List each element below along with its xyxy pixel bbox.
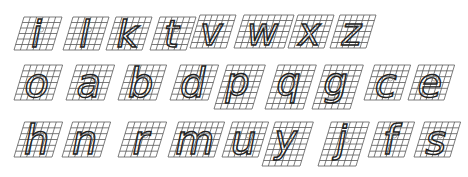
- letterform-f: f: [383, 117, 403, 163]
- letterform-m: m: [175, 117, 214, 163]
- letterform-h: h: [24, 117, 49, 163]
- letter-grid-u: u: [222, 117, 269, 163]
- letter-grid-i: i: [14, 12, 62, 56]
- letter-grid-f: f: [368, 117, 415, 163]
- letterform-t: t: [164, 12, 181, 56]
- letterform-v: v: [200, 10, 223, 54]
- letterform-p: p: [225, 60, 250, 104]
- letter-grid-n: n: [62, 117, 111, 163]
- letterform-c: c: [375, 60, 397, 106]
- letterform-l: l: [79, 12, 90, 56]
- letter-grid-d: d: [170, 60, 219, 106]
- row-2: oabdpqgce: [14, 60, 455, 109]
- diagram-canvas: ilktvwxzoabdpqgcehnrmuyjfs: [0, 0, 468, 177]
- letter-grid-g: g: [312, 60, 363, 109]
- letter-grid-m: m: [168, 117, 225, 163]
- letterform-q: q: [277, 60, 301, 104]
- letterform-o: o: [24, 60, 48, 106]
- letter-grid-w: w: [234, 10, 294, 54]
- letterform-k: k: [116, 12, 140, 56]
- row-3: hnrmuyjfs: [14, 117, 461, 166]
- letter-grid-e: e: [408, 60, 455, 106]
- letter-grid-y: y: [262, 117, 313, 166]
- letter-grid-x: x: [288, 10, 334, 54]
- letter-grid-q: q: [265, 60, 316, 109]
- letter-grid-o: o: [14, 60, 63, 106]
- letter-grid-t: t: [150, 12, 196, 56]
- letterform-w: w: [247, 10, 279, 54]
- letter-grid-b: b: [118, 60, 167, 106]
- letterform-u: u: [231, 117, 256, 163]
- letterform-x: x: [297, 10, 321, 54]
- letterform-s: s: [425, 117, 446, 163]
- letter-grid-h: h: [14, 117, 63, 163]
- letter-grid-r: r: [118, 117, 167, 163]
- letterform-i: i: [31, 12, 42, 56]
- letter-grid-p: p: [214, 60, 265, 109]
- letter-grid-j: j: [318, 117, 369, 166]
- letterform-b: b: [128, 60, 153, 106]
- letterform-grid-diagram: ilktvwxzoabdpqgcehnrmuyjfs: [0, 0, 468, 177]
- letter-grid-z: z: [330, 10, 376, 54]
- letter-grid-s: s: [414, 117, 461, 163]
- letterform-r: r: [132, 117, 151, 163]
- letterform-a: a: [76, 60, 101, 106]
- letterform-n: n: [72, 117, 97, 163]
- row-1: ilktvwxz: [14, 10, 376, 56]
- letterform-z: z: [341, 10, 363, 54]
- letterform-g: g: [324, 60, 348, 104]
- letterform-e: e: [417, 60, 442, 106]
- letter-grid-v: v: [190, 10, 236, 54]
- letterform-y: y: [273, 117, 297, 161]
- letter-grid-l: l: [63, 12, 109, 56]
- letter-grid-a: a: [66, 60, 115, 106]
- letter-grid-k: k: [106, 12, 152, 56]
- letterform-d: d: [180, 60, 206, 106]
- letter-grid-c: c: [364, 60, 411, 106]
